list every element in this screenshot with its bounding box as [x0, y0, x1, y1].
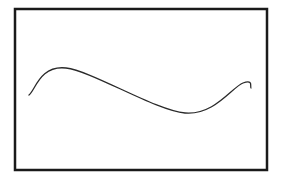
- diagram-svg: [0, 0, 282, 181]
- diagram-frame: [15, 9, 267, 170]
- diagram-canvas: [0, 0, 282, 181]
- wave-curve: [29, 68, 251, 113]
